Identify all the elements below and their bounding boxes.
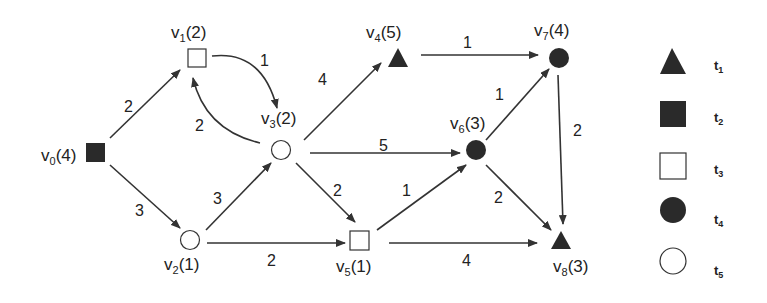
legend: t1 t2 t3 t4 t5: [660, 48, 723, 280]
legend-t4-label: t4: [714, 212, 723, 229]
weight-v2-v5: 2: [267, 252, 276, 269]
weight-v5-v8: 4: [462, 252, 471, 269]
edge-v7-v8: [558, 75, 563, 224]
node-v3-label: v3(2): [261, 109, 296, 130]
node-v5-square-hollow[interactable]: [350, 231, 369, 250]
node-v4-triangle-filled[interactable]: [388, 48, 408, 67]
edge-v0-v1: [110, 70, 180, 138]
weight-v3-v1: 2: [195, 117, 204, 134]
legend-triangle-filled-icon: [660, 48, 686, 74]
legend-t2-label: t2: [714, 110, 723, 127]
legend-square-filled-icon: [660, 101, 686, 127]
node-v6-label: v6(3): [450, 114, 485, 135]
node-v7-label: v7(4): [534, 21, 569, 42]
weight-v3-v4: 4: [318, 71, 327, 88]
weight-v1-v3: 1: [260, 52, 269, 69]
weight-v3-v5: 2: [333, 182, 342, 199]
edge-v5-v6: [377, 165, 466, 230]
edges: [110, 55, 563, 243]
legend-circle-hollow-icon: [660, 248, 686, 274]
legend-t1-label: t1: [714, 58, 723, 75]
node-v0-label: v0(4): [41, 146, 76, 167]
node-v1-label: v1(2): [171, 23, 206, 44]
weight-v5-v6: 1: [402, 182, 411, 199]
nodes: v0(4) v1(2) v2(1) v3(2) v4(5) v5(1) v6(3…: [41, 21, 588, 278]
node-v5-label: v5(1): [336, 257, 371, 278]
node-v3-circle-hollow[interactable]: [272, 141, 291, 160]
node-v0-square-filled[interactable]: [86, 143, 105, 162]
weight-v6-v8: 2: [494, 189, 503, 206]
weight-v3-v6: 5: [379, 137, 388, 154]
weight-v2-v3: 3: [213, 190, 222, 207]
weight-v4-v7: 1: [463, 34, 472, 51]
edge-v6-v7: [486, 69, 549, 140]
legend-square-hollow-icon: [660, 153, 686, 179]
legend-circle-filled-icon: [660, 197, 686, 223]
weight-v6-v7: 1: [495, 86, 504, 103]
node-v2-circle-hollow[interactable]: [181, 231, 200, 250]
weight-v0-v1: 2: [124, 98, 133, 115]
node-v2-label: v2(1): [164, 255, 199, 276]
legend-t5-label: t5: [714, 263, 723, 280]
edge-v0-v2: [110, 165, 180, 228]
edge-v3-v5: [296, 163, 355, 222]
node-v8-triangle-filled[interactable]: [551, 231, 571, 249]
weight-v0-v2: 3: [135, 202, 144, 219]
legend-t3-label: t3: [714, 162, 723, 179]
weight-v7-v8: 2: [573, 122, 582, 139]
task-graph-diagram: 2 3 1 2 3 2 4 5 2 1 1 4 1 2 2 v0(4) v1(2…: [0, 0, 767, 303]
node-v1-square-hollow[interactable]: [188, 49, 206, 67]
node-v4-label: v4(5): [366, 23, 401, 44]
node-v8-label: v8(3): [553, 257, 588, 278]
edge-v3-v4: [304, 63, 381, 140]
node-v6-circle-filled[interactable]: [466, 140, 486, 160]
node-v7-circle-filled[interactable]: [549, 48, 569, 68]
